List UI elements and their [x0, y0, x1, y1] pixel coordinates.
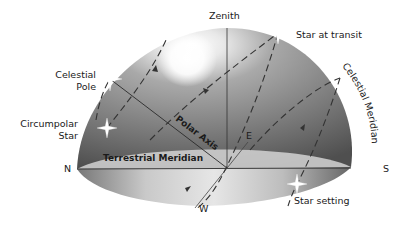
- east-label: E: [246, 130, 252, 141]
- west-label: W: [199, 203, 208, 214]
- celestial-sphere-diagram: Celestial Meridian Polar Axis Zenith Sta…: [0, 0, 406, 228]
- circumpolar-star-label-line1: Circumpolar: [16, 118, 78, 129]
- terrestrial-meridian-label: Terrestrial Meridian: [103, 153, 203, 164]
- zenith-label: Zenith: [209, 10, 240, 21]
- south-label: S: [383, 163, 389, 174]
- celestial-pole-label-line2: Pole: [50, 81, 96, 92]
- star-at-transit-label: Star at transit: [296, 29, 362, 40]
- north-label: N: [64, 163, 71, 174]
- celestial-pole-label-line1: Celestial: [50, 69, 96, 80]
- star-setting-label: Star setting: [294, 195, 349, 206]
- circumpolar-star-label-line2: Star: [16, 130, 78, 141]
